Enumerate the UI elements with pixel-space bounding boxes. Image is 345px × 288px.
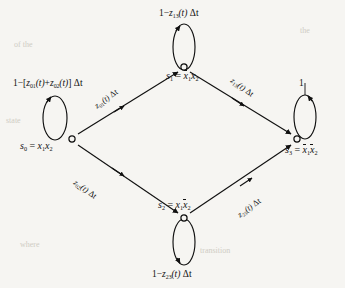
node-s0-state-sub: 0 <box>24 145 27 152</box>
node-s2-def-b: x <box>183 200 187 210</box>
node-s3-def-b-sub: 2 <box>314 149 317 156</box>
node-s1-def-a: x <box>184 71 188 81</box>
self-loop-s0 <box>43 96 67 140</box>
node-s1-eq: = <box>175 70 181 81</box>
node-label-s2: s2 = x1x2 <box>158 200 190 211</box>
loop-left-close: ] <box>68 78 71 88</box>
node-s0-eq: = <box>29 140 35 151</box>
node-s3 <box>294 136 300 142</box>
state-transition-figure: of the the state transition where 1−z13(… <box>0 0 345 288</box>
node-s3-def-b: x <box>310 145 314 155</box>
node-label-s3: s3 = x1x2 <box>285 145 317 156</box>
loop-top-dt: Δt <box>190 8 199 18</box>
loop-bottom-arg: (t) <box>171 269 180 279</box>
node-s0-def-b-sub: 2 <box>49 145 52 152</box>
self-loop-label-s1: 1−z13(t) Δt <box>159 9 199 20</box>
self-loop-s3 <box>294 83 316 139</box>
node-s2-eq: = <box>167 199 173 210</box>
node-s3-state-sub: 3 <box>289 149 292 156</box>
self-loop-s1 <box>173 24 195 70</box>
edge-s2-s3 <box>190 145 291 213</box>
node-s3-eq: = <box>294 144 300 155</box>
self-loop-label-s2: 1−z23(t) Δt <box>152 270 192 281</box>
self-loop-s2 <box>173 219 195 265</box>
self-loop-label-s3: 1 <box>299 79 304 89</box>
node-s2-state-sub: 2 <box>162 204 165 211</box>
node-s1-def-b-sub: 2 <box>195 75 198 82</box>
loop-left-arg-b: (t) <box>59 78 68 88</box>
node-s2 <box>181 215 187 221</box>
node-label-s1: s1 = x1x2 <box>166 71 198 82</box>
node-s1-state-sub: 1 <box>170 75 173 82</box>
node-s3-def-a: x <box>303 145 307 155</box>
loop-top-arg: (t) <box>178 8 187 18</box>
node-s2-def-b-sub: 2 <box>187 204 190 211</box>
node-s0 <box>69 136 75 142</box>
loop-left-arg-a: (t) <box>36 78 45 88</box>
loop-left-dt: Δt <box>74 78 83 88</box>
node-label-s0: s0 = x1x2 <box>20 141 52 152</box>
self-loop-label-s0: 1−[z01(t)+z02(t)] Δt <box>13 79 83 90</box>
loop-right-one: 1 <box>299 78 304 88</box>
loop-bottom-dt: Δt <box>183 269 192 279</box>
